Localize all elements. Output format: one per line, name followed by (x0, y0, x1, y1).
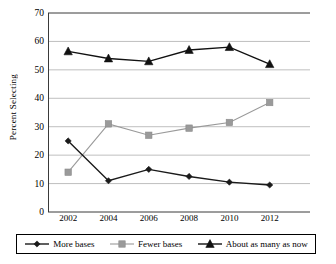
chart-figure: Percent Selecting 010203040506070 200220… (0, 0, 336, 264)
y-tick-label: 40 (35, 93, 45, 103)
y-axis-title-text: Percent Selecting (8, 74, 18, 140)
square-marker-icon (146, 132, 152, 138)
square-marker (105, 121, 111, 127)
diamond-marker (146, 166, 152, 172)
series-about-as-many-as-now (64, 43, 274, 68)
diamond-marker-icon (34, 241, 40, 247)
legend-item-label: Fewer bases (138, 240, 182, 249)
series-line (68, 103, 270, 173)
diamond-marker (226, 179, 232, 185)
x-tick-label: 2008 (180, 213, 198, 223)
x-axis-tick-labels: 200220042006200820102012 (0, 213, 336, 229)
diamond-marker-icon (24, 238, 50, 250)
series-line (68, 141, 270, 185)
diamond-marker-icon (186, 173, 192, 179)
diamond-marker (34, 241, 40, 247)
y-tick-label: 10 (35, 179, 45, 189)
x-tick-label: 2006 (140, 213, 158, 223)
x-tick-label: 2010 (220, 213, 238, 223)
square-marker (266, 99, 272, 105)
x-tick-label: 2002 (59, 213, 77, 223)
square-marker-icon (119, 241, 125, 247)
y-axis-title: Percent Selecting (2, 0, 24, 215)
y-tick-label: 50 (35, 65, 45, 75)
triangle-marker (64, 47, 72, 55)
plot-area (48, 13, 310, 212)
legend-item[interactable]: About as many as now (197, 238, 308, 250)
square-marker-icon (226, 119, 232, 125)
y-tick-label: 70 (35, 8, 45, 18)
square-marker (65, 169, 71, 175)
triangle-marker-icon (64, 47, 72, 55)
y-tick-label: 60 (35, 36, 45, 46)
chart-legend: More basesFewer basesAbout as many as no… (16, 234, 316, 254)
square-marker-icon (266, 99, 272, 105)
legend-item[interactable]: Fewer bases (109, 238, 182, 250)
y-tick-label: 30 (35, 122, 45, 132)
series-more-bases (65, 138, 273, 188)
diamond-marker-icon (226, 179, 232, 185)
square-marker (226, 119, 232, 125)
square-marker (146, 132, 152, 138)
triangle-marker-icon (197, 238, 223, 250)
square-marker (186, 125, 192, 131)
x-tick-label: 2004 (99, 213, 117, 223)
diamond-marker (186, 173, 192, 179)
square-marker-icon (186, 125, 192, 131)
x-tick-label: 2012 (261, 213, 279, 223)
y-axis-tick-labels: 010203040506070 (24, 0, 46, 215)
legend-item[interactable]: More bases (24, 238, 94, 250)
series-line (68, 47, 270, 64)
diamond-marker-icon (267, 182, 273, 188)
y-tick-label: 20 (35, 150, 45, 160)
legend-item-label: More bases (53, 240, 94, 249)
square-marker-icon (109, 238, 135, 250)
diamond-marker-icon (146, 166, 152, 172)
series-fewer-bases (65, 99, 273, 175)
chart-canvas (48, 13, 310, 212)
square-marker-icon (65, 169, 71, 175)
legend-item-label: About as many as now (226, 240, 308, 249)
diamond-marker (267, 182, 273, 188)
square-marker (119, 241, 125, 247)
square-marker-icon (105, 121, 111, 127)
